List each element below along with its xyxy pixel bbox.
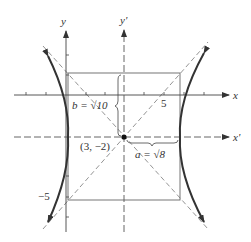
a-label: a = √8 — [135, 148, 165, 160]
x-prime-axis-label: x' — [232, 131, 241, 143]
y-axis-label: y — [60, 15, 66, 27]
a-brace — [127, 140, 178, 146]
tick-label-y-neg-5: −5 — [38, 190, 50, 202]
tick-label-x-5: 5 — [161, 97, 167, 109]
b-label: b = √10 — [72, 99, 108, 111]
center-label: (3, −2) — [80, 140, 110, 153]
x-axis-label: x — [232, 89, 238, 101]
hyperbola-diagram: x y x' y' 5 −5 (3, −2) b = √10 a = √8 — [0, 0, 251, 242]
y-prime-axis-label: y' — [119, 14, 128, 26]
right-branch — [180, 53, 204, 222]
left-branch — [48, 56, 68, 222]
center-point — [121, 134, 126, 139]
